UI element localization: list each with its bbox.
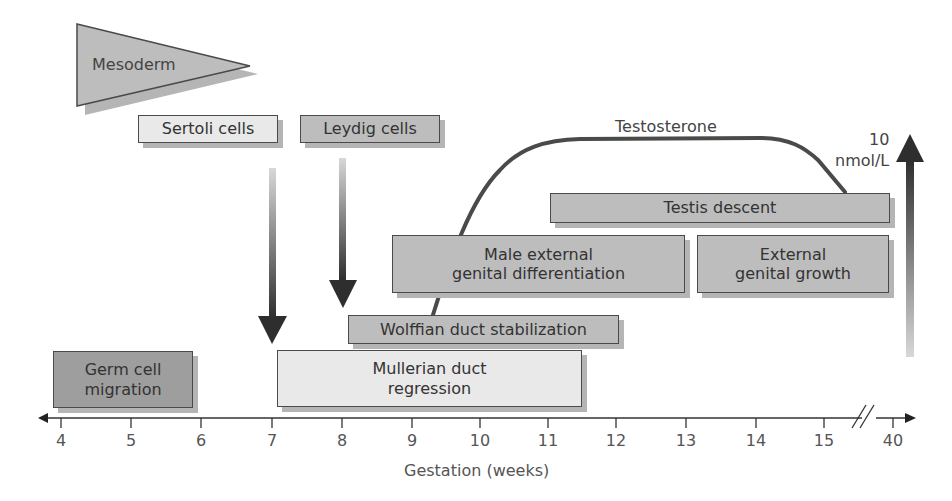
- mullerian-line1: Mullerian duct: [372, 359, 486, 378]
- scale-value: 10: [869, 130, 889, 149]
- mullerian-duct-regression-box: Mullerian duct regression: [277, 350, 582, 407]
- male-external-line2: genital differentiation: [452, 264, 625, 283]
- x-axis-label: Gestation (weeks): [404, 461, 549, 480]
- external-genital-growth-box: External genital growth: [697, 235, 889, 293]
- tick-label: 14: [746, 431, 766, 450]
- x-axis: [38, 405, 916, 428]
- wolffian-duct-stabilization-box: Wolffian duct stabilization: [348, 315, 619, 344]
- tick-label: 8: [337, 431, 347, 450]
- tick-label: 9: [407, 431, 417, 450]
- scale-unit: nmol/L: [835, 151, 889, 170]
- tick-label: 15: [814, 431, 834, 450]
- testosterone-label: Testosterone: [615, 117, 717, 136]
- leydig-cells-box: Leydig cells: [300, 115, 440, 143]
- germ-cell-line2: migration: [84, 380, 161, 399]
- sertoli-cells-label: Sertoli cells: [162, 119, 254, 138]
- testosterone-scale-arrow-icon: [896, 134, 924, 357]
- mullerian-line2: regression: [372, 379, 486, 398]
- tick-label: 13: [676, 431, 696, 450]
- testis-descent-box: Testis descent: [550, 193, 890, 223]
- leydig-arrow-icon: [329, 158, 357, 308]
- male-external-genital-differentiation-box: Male external genital differentiation: [392, 235, 685, 293]
- tick-label: 10: [470, 431, 490, 450]
- germ-cell-migration-box: Germ cell migration: [53, 351, 193, 408]
- male-external-line1: Male external: [452, 245, 625, 264]
- tick-label: 5: [126, 431, 136, 450]
- leydig-cells-label: Leydig cells: [323, 119, 417, 138]
- mesoderm-label: Mesoderm: [92, 55, 176, 74]
- external-growth-line2: genital growth: [735, 264, 851, 283]
- tick-label: 7: [267, 431, 277, 450]
- tick-label: 12: [606, 431, 626, 450]
- germ-cell-line1: Germ cell: [84, 360, 161, 379]
- wolffian-label: Wolffian duct stabilization: [380, 320, 587, 339]
- tick-label: 4: [56, 431, 66, 450]
- external-growth-line1: External: [735, 245, 851, 264]
- sertoli-cells-box: Sertoli cells: [138, 115, 278, 143]
- testis-descent-label: Testis descent: [664, 198, 777, 217]
- tick-label: 6: [196, 431, 206, 450]
- tick-label: 11: [538, 431, 558, 450]
- sertoli-arrow-icon: [258, 168, 287, 344]
- tick-label: 40: [883, 431, 903, 450]
